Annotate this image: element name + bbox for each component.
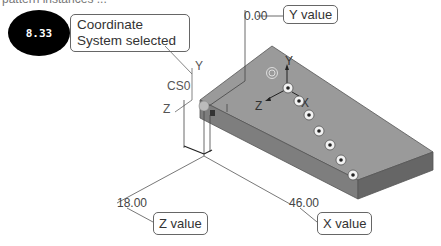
- y-value-callout: Y value: [283, 5, 338, 24]
- hole-center: [328, 143, 332, 147]
- cs-name-label: CS0: [167, 79, 191, 93]
- pattern-z-label: Z: [255, 99, 262, 113]
- part-diagram: Y CS0 Z Y Z X: [0, 0, 441, 246]
- x-value-callout: X value: [317, 212, 372, 235]
- cs-z-label: Z: [163, 102, 170, 116]
- x-callout-leader: [300, 208, 317, 222]
- cs-z-axis: [175, 100, 192, 112]
- hole-center: [307, 113, 311, 117]
- hole-center: [339, 158, 343, 162]
- z-dimension-value[interactable]: 18.00: [117, 196, 147, 210]
- x-dimension-value[interactable]: 46.00: [289, 196, 319, 210]
- hole-center: [351, 173, 355, 177]
- dimension-arrow-x: [204, 150, 212, 154]
- hole-center: [286, 86, 290, 90]
- cs-origin-point: [199, 101, 209, 111]
- cs-marker: [210, 110, 215, 116]
- z-value-callout: Z value: [153, 212, 208, 235]
- y-dimension-value[interactable]: 0.00: [244, 9, 267, 23]
- hole-center: [297, 99, 301, 103]
- x-dimension-leader: [204, 156, 290, 204]
- cs-callout-leader: [165, 46, 192, 74]
- z-callout-leader: [127, 208, 153, 222]
- dimension-arrow-z: [184, 146, 204, 154]
- cs-y-label: Y: [195, 59, 203, 73]
- hole-center: [317, 129, 321, 133]
- pattern-y-label: Y: [285, 54, 293, 68]
